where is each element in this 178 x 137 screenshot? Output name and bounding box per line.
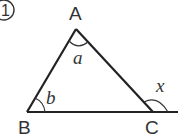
- vertex-label-a: A: [69, 3, 82, 24]
- vertex-label-c: C: [145, 117, 159, 137]
- angle-label-a: a: [73, 47, 83, 68]
- angle-arc-b: [35, 98, 45, 112]
- angle-label-x: x: [155, 75, 165, 96]
- angle-arc-a: [69, 41, 88, 46]
- vertex-label-b: B: [18, 117, 31, 137]
- side-ac: [76, 29, 153, 112]
- triangle-diagram: 1 A B C a b x: [0, 0, 178, 137]
- problem-number: 1: [1, 2, 10, 19]
- angle-label-b: b: [46, 87, 56, 108]
- problem-number-badge: 1: [0, 0, 14, 20]
